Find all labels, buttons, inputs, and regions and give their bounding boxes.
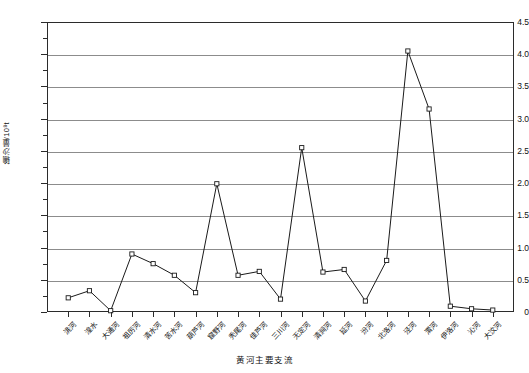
data-point-marker (427, 107, 431, 111)
x-axis-tick (408, 312, 409, 317)
x-axis-tick-label: 三川河 (269, 319, 291, 342)
data-point-marker (363, 299, 367, 303)
x-axis-tick-label: 伊洛河 (439, 319, 461, 342)
data-point-marker (448, 304, 452, 308)
sediment-load-line-chart: 输沙量/10⁸t 00.51.01.52.02.53.03.54.04.5 洮河… (0, 0, 529, 373)
y-axis-major-tick (41, 312, 47, 313)
x-axis-tick (153, 312, 154, 317)
data-point-marker (469, 307, 473, 311)
data-point-marker (278, 297, 282, 301)
x-axis-tick-label: 秃尾河 (227, 319, 249, 342)
x-axis-tick-label: 苦水河 (163, 319, 185, 342)
data-point-marker (406, 49, 410, 53)
x-axis-tick (302, 312, 303, 317)
x-axis-tick (68, 312, 69, 317)
x-axis-tick-label: 洮河 (62, 319, 79, 336)
x-axis-tick (217, 312, 218, 317)
x-axis-tick-label: 汾河 (359, 319, 376, 336)
x-axis-tick (493, 312, 494, 317)
data-point-marker (151, 262, 155, 266)
x-axis-tick (450, 312, 451, 317)
data-point-marker (215, 182, 219, 186)
data-point-marker (193, 291, 197, 295)
x-axis-tick-label: 大通河 (99, 319, 121, 342)
x-axis-tick-label: 佳芦河 (248, 319, 270, 342)
x-axis-tick-label: 大汶河 (481, 319, 503, 342)
data-point-marker (342, 267, 346, 271)
x-axis-tick (238, 312, 239, 317)
x-axis-tick (323, 312, 324, 317)
data-point-marker (172, 273, 176, 277)
x-axis-tick (132, 312, 133, 317)
data-point-marker (130, 252, 134, 256)
data-point-marker (66, 296, 70, 300)
x-axis-tick (387, 312, 388, 317)
x-axis-tick-label: 无定河 (290, 319, 312, 342)
series-marker-group (66, 49, 495, 313)
x-axis-tick-label: 清涧河 (311, 319, 333, 342)
x-axis-tick (259, 312, 260, 317)
x-axis-tick (472, 312, 473, 317)
x-axis-tick (174, 312, 175, 317)
x-axis-tick (111, 312, 112, 317)
x-axis-tick-label: 清水河 (142, 319, 164, 342)
data-point-marker (236, 273, 240, 277)
data-point-marker (87, 289, 91, 293)
data-point-marker (257, 269, 261, 273)
data-point-marker (321, 270, 325, 274)
x-axis-tick (196, 312, 197, 317)
x-axis-tick-label: 渭河 (422, 319, 439, 336)
x-axis-tick-label: 湟水 (83, 319, 100, 336)
x-axis-title: 黄河主要支流 (0, 353, 529, 365)
x-axis-tick-label: 北洛河 (375, 319, 397, 342)
data-point-marker (300, 146, 304, 150)
data-series-layer (47, 22, 514, 312)
x-axis-tick-label: 窟野河 (205, 319, 227, 342)
y-axis-title: 输沙量/10⁸t (2, 122, 16, 164)
x-axis-tick-label: 沁河 (465, 319, 482, 336)
x-axis-tick-label: 泾河 (401, 319, 418, 336)
x-axis-tick (89, 312, 90, 317)
x-axis-tick (429, 312, 430, 317)
x-axis-tick (365, 312, 366, 317)
x-axis-tick (344, 312, 345, 317)
data-point-marker (385, 258, 389, 262)
series-line-sediment-load (68, 51, 493, 311)
x-axis-tick-label: 葫芦河 (184, 319, 206, 342)
x-axis-tick-label: 祖厉河 (120, 319, 142, 342)
x-axis-tick (281, 312, 282, 317)
x-axis-tick-label: 延河 (338, 319, 355, 336)
